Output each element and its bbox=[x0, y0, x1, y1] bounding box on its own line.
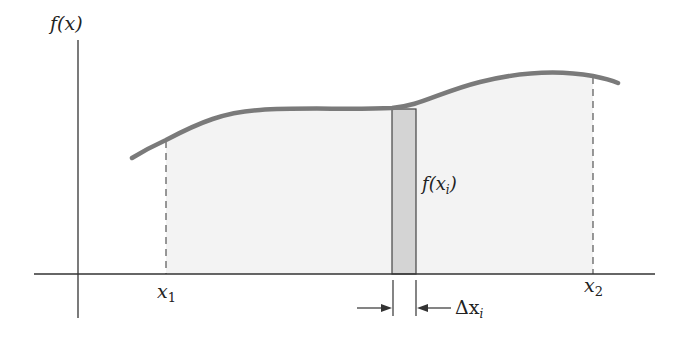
y-axis-label: f(x) bbox=[48, 12, 83, 34]
strip-rectangle bbox=[392, 109, 416, 274]
area-under-curve bbox=[166, 73, 593, 274]
delta-x-label: Δxi bbox=[455, 296, 483, 321]
integral-diagram: f(x) f(xi) x1 x2 Δxi bbox=[0, 0, 691, 337]
strip-height-label: f(xi) bbox=[420, 173, 457, 197]
arrowhead-left-icon bbox=[417, 304, 428, 312]
x1-label: x1 bbox=[157, 280, 176, 305]
x2-label: x2 bbox=[584, 274, 603, 299]
arrowhead-right-icon bbox=[381, 304, 392, 312]
